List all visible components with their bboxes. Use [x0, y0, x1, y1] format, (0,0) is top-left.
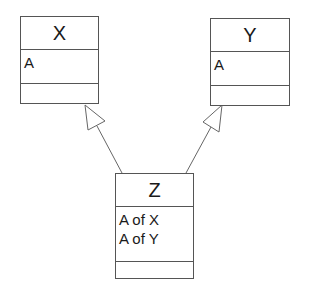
class-z[interactable]: Z A of X A of Y: [115, 173, 194, 279]
hollow-triangle-arrowhead-icon: [85, 105, 105, 130]
class-methods: [21, 84, 98, 103]
class-attributes: A: [21, 50, 98, 84]
class-methods: [211, 86, 289, 105]
attribute: A: [214, 55, 289, 74]
class-name: Z: [116, 174, 193, 207]
class-name: Y: [211, 19, 289, 52]
class-attributes: A: [211, 52, 289, 86]
class-y[interactable]: Y A: [210, 18, 290, 106]
attribute: A of X: [119, 210, 193, 229]
class-x[interactable]: X A: [20, 16, 99, 104]
class-attributes: A of X A of Y: [116, 207, 193, 262]
generalization-z-to-x: [85, 105, 122, 173]
class-methods: [116, 262, 193, 278]
hollow-triangle-arrowhead-icon: [203, 105, 222, 132]
generalization-z-to-y: [186, 105, 222, 173]
attribute: A: [24, 53, 98, 72]
attribute: A of Y: [119, 229, 193, 248]
class-name: X: [21, 17, 98, 50]
